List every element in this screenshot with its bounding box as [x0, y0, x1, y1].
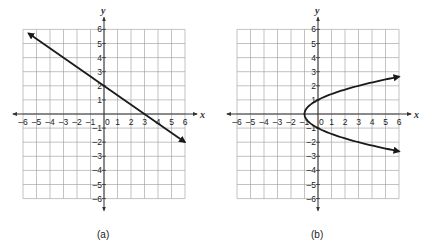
y-tick-label: –2 [307, 137, 317, 147]
x-tick-label: 5 [169, 117, 174, 127]
x-axis-label: x [199, 109, 205, 120]
x-tick-label: 2 [129, 117, 134, 127]
caption-a: (a) [97, 229, 109, 240]
y-tick-label: 1 [97, 95, 102, 105]
x-tick-label: –5 [246, 117, 256, 127]
x-tick-label: –3 [273, 117, 283, 127]
x-tick-label: 2 [343, 117, 348, 127]
x-tick-label: –4 [259, 117, 269, 127]
y-tick-label: –5 [307, 180, 317, 190]
y-tick-label: 4 [311, 53, 316, 63]
y-axis-label: y [314, 5, 320, 16]
y-tick-label: 3 [97, 67, 102, 77]
x-tick-label: 6 [183, 117, 188, 127]
x-tick-label: –2 [286, 117, 296, 127]
chart-panel-a: xy–6–5–4–3–2–10123456654321–1–2–3–4–5–6 [13, 5, 205, 210]
x-tick-label: 3 [142, 117, 147, 127]
y-tick-label: –3 [93, 151, 103, 161]
x-tick-label: 0 [105, 117, 110, 127]
x-axis-label: x [413, 109, 419, 120]
x-tick-label: 4 [370, 117, 375, 127]
y-tick-label: –2 [93, 137, 103, 147]
x-tick-label: –6 [232, 117, 242, 127]
y-tick-label: –6 [307, 194, 317, 204]
y-tick-label: 4 [97, 53, 102, 63]
y-axis-label: y [100, 5, 106, 16]
x-tick-label: 6 [397, 117, 402, 127]
y-tick-label: 5 [97, 39, 102, 49]
x-tick-label: –5 [32, 117, 42, 127]
y-tick-label: –1 [93, 123, 103, 133]
x-tick-label: 0 [319, 117, 324, 127]
y-tick-label: 6 [97, 24, 102, 34]
y-tick-label: 5 [311, 39, 316, 49]
x-tick-label: –6 [18, 117, 28, 127]
y-tick-label: –3 [307, 151, 317, 161]
chart-panel-b: xy–6–5–4–3–2–10123456654321–1–2–3–4–5–6 [227, 5, 419, 210]
x-tick-label: 5 [383, 117, 388, 127]
y-tick-label: 6 [311, 24, 316, 34]
y-tick-label: –4 [307, 165, 317, 175]
y-tick-label: –4 [93, 165, 103, 175]
y-tick-label: 3 [311, 67, 316, 77]
y-tick-label: 2 [311, 81, 316, 91]
x-tick-label: –4 [45, 117, 55, 127]
x-tick-label: 1 [329, 117, 334, 127]
y-tick-label: –6 [93, 194, 103, 204]
x-tick-label: –3 [59, 117, 69, 127]
caption-b: (b) [311, 229, 323, 240]
x-tick-label: 3 [356, 117, 361, 127]
figure: xy–6–5–4–3–2–10123456654321–1–2–3–4–5–6x… [0, 0, 429, 246]
x-tick-label: 1 [115, 117, 120, 127]
y-tick-label: –5 [93, 180, 103, 190]
x-tick-label: –2 [72, 117, 82, 127]
